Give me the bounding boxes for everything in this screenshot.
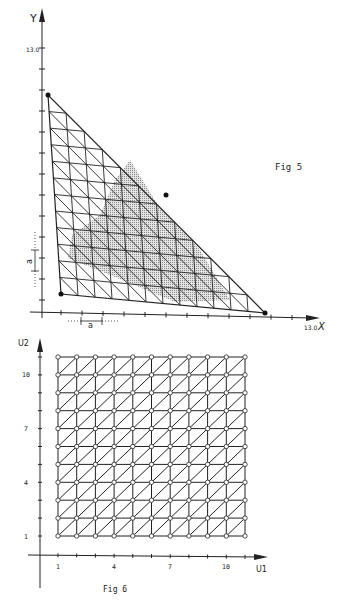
u1-tick-label: 7 bbox=[168, 563, 172, 571]
fig5-y-max-label: 13.0 bbox=[26, 46, 40, 53]
u2-tick-label: 10 bbox=[22, 371, 30, 379]
fig6-u1-axis bbox=[28, 555, 258, 557]
corner-point-bottom-left bbox=[59, 292, 64, 297]
fig5-spacing-label-y: a bbox=[25, 259, 34, 264]
fig5-x-axis bbox=[30, 312, 312, 318]
u2-tick-label: 7 bbox=[24, 425, 28, 433]
fig5-x-axis-label: X bbox=[317, 321, 326, 332]
u1-tick-label: 4 bbox=[112, 563, 116, 571]
figure-canvas: Y 13.0 13.0 X a a Fig 5 U2 U1 1 4 7 10 1… bbox=[0, 0, 346, 608]
fig6-u1-axis-arrow-icon bbox=[254, 554, 268, 560]
fig5-y-axis-arrow-icon bbox=[39, 8, 45, 22]
u1-tick-label: 1 bbox=[56, 563, 60, 571]
fig6-u2-tick-labels: 1 4 7 10 bbox=[22, 371, 30, 541]
fig5-spacing-label-x: a bbox=[88, 321, 93, 330]
corner-point-top bbox=[46, 93, 51, 98]
u2-tick-label: 1 bbox=[24, 533, 28, 541]
fig6-u1-axis-label: U1 bbox=[256, 565, 267, 574]
fig5-caption: Fig 5 bbox=[275, 162, 302, 172]
fig6-u1-ticks bbox=[58, 553, 245, 559]
u1-tick-label: 10 bbox=[222, 563, 230, 571]
fig6-u2-axis-label: U2 bbox=[18, 339, 29, 348]
corner-point-bottom-right bbox=[263, 311, 268, 316]
fig5-diagram: Y 13.0 13.0 X a a Fig 5 bbox=[25, 8, 326, 332]
u2-tick-label: 4 bbox=[24, 479, 28, 487]
fig6-diagram: U2 U1 1 4 7 10 1 4 7 10 Fig 6 bbox=[18, 338, 268, 594]
fig5-x-max-label: 13.0 bbox=[304, 324, 318, 331]
fig5-spacing-marker-x bbox=[68, 317, 118, 325]
corner-point-hypotenuse-mid bbox=[164, 193, 169, 198]
fig6-u1-tick-labels: 1 4 7 10 bbox=[56, 563, 230, 571]
fig6-caption: Fig 6 bbox=[103, 585, 127, 594]
fig5-y-axis-label: Y bbox=[29, 12, 37, 25]
fig6-u2-axis-arrow-icon bbox=[37, 338, 43, 352]
